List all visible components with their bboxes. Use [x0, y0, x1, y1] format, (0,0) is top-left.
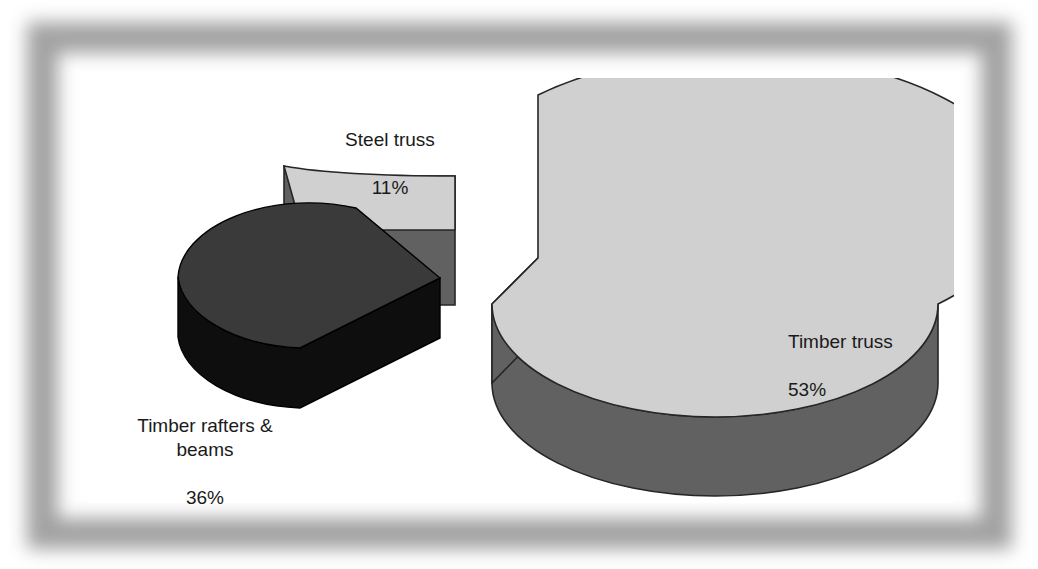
pie-slice-timber-truss: [492, 78, 954, 496]
pie-label-timber-truss: Timber truss 53%: [788, 306, 978, 426]
pie-label-timber-rafters-beams-value: 36%: [90, 486, 320, 510]
pie-label-timber-rafters-beams-name: Timber rafters & beams: [90, 414, 320, 462]
pie-label-steel-truss-value: 11%: [300, 176, 480, 200]
pie-label-timber-truss-value: 53%: [788, 378, 978, 402]
pie-label-timber-rafters-beams: Timber rafters & beams 36%: [90, 390, 320, 534]
chart-plot-area: Steel truss 11% Timber truss 53% Timber …: [88, 78, 954, 503]
pie-chart-figure: Steel truss 11% Timber truss 53% Timber …: [0, 0, 1038, 569]
pie-label-steel-truss-name: Steel truss: [300, 128, 480, 152]
pie-label-steel-truss: Steel truss 11%: [300, 104, 480, 224]
pie-label-timber-truss-name: Timber truss: [788, 330, 978, 354]
